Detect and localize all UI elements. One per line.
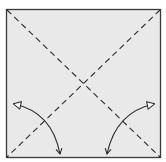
origami-diagram bbox=[0, 0, 166, 162]
